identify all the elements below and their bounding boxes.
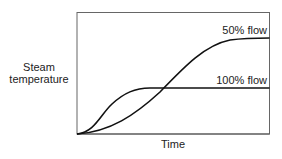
y-axis-label-line1: Steam <box>23 61 55 73</box>
y-axis-label-line2: temperature <box>9 73 68 85</box>
x-axis-label: Time <box>161 138 185 150</box>
chart: 50% flow 100% flow Steam temperature Tim… <box>0 0 282 159</box>
curve-100-flow <box>77 88 270 134</box>
curve-50-flow <box>77 38 270 134</box>
label-100-flow: 100% flow <box>216 74 267 86</box>
label-50-flow: 50% flow <box>222 24 267 36</box>
